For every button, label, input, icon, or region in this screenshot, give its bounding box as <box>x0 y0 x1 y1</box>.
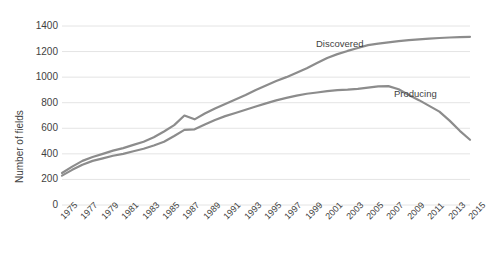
x-tick-label: 1987 <box>181 201 202 222</box>
x-tick-label: 1983 <box>141 201 162 222</box>
x-tick-label: 2013 <box>447 201 468 222</box>
x-tick-label: 1975 <box>59 201 80 222</box>
x-tick-label: 2007 <box>385 201 406 222</box>
series-label-discovered: Discovered <box>316 38 364 49</box>
x-tick-label: 1999 <box>304 201 325 222</box>
x-tick-label: 1993 <box>243 201 264 222</box>
series-label-producing: Producing <box>394 88 437 99</box>
x-tick-label: 1977 <box>79 201 100 222</box>
x-tick-label: 2005 <box>365 201 386 222</box>
x-tick-label: 2003 <box>345 201 366 222</box>
x-tick-label: 1981 <box>120 201 141 222</box>
x-tick-label: 1995 <box>263 201 284 222</box>
x-tick-label: 1979 <box>100 201 121 222</box>
x-tick-label: 2015 <box>467 201 488 222</box>
x-tick-label: 1985 <box>161 201 182 222</box>
x-tick-label: 1991 <box>222 201 243 222</box>
x-tick-label: 2011 <box>426 201 446 221</box>
x-tick-label: 2009 <box>406 201 427 222</box>
x-tick-label: 1997 <box>283 201 304 222</box>
x-tick-label: 1989 <box>202 201 223 222</box>
x-tick-label: 2001 <box>324 201 345 222</box>
